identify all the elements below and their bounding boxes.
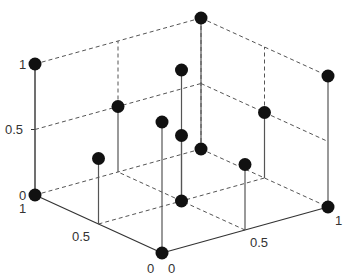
data-point-marker (156, 116, 169, 129)
data-point-marker (92, 152, 105, 165)
x-tick-label-1: 1 (19, 201, 26, 216)
stem-plot-3d: 1 0.5 0 1 0.5 0 0 0.5 1 (0, 0, 351, 280)
data-point-marker (29, 58, 42, 71)
z-tick-label-1: 1 (19, 57, 26, 72)
data-point-marker (112, 100, 125, 113)
data-point-marker (322, 201, 335, 214)
axes (31, 64, 328, 253)
x-tick-label-0: 0 (147, 261, 154, 276)
z-tick-label-0.5: 0.5 (5, 122, 23, 137)
data-point-marker (239, 158, 252, 171)
y-tick-label-1: 1 (335, 213, 342, 228)
data-point-marker (322, 70, 335, 83)
data-point-marker (175, 195, 188, 208)
y-tick-label-0: 0 (168, 261, 175, 276)
y-tick-label-0.5: 0.5 (250, 235, 268, 250)
data-point-marker (195, 12, 208, 25)
x-tick-label-0.5: 0.5 (72, 229, 90, 244)
data-point-marker (195, 143, 208, 156)
data-point-marker (156, 247, 169, 260)
data-point-marker (258, 106, 271, 119)
markers (29, 12, 335, 260)
data-point-marker (175, 129, 188, 142)
data-point-marker (29, 189, 42, 202)
data-point-marker (175, 64, 188, 77)
